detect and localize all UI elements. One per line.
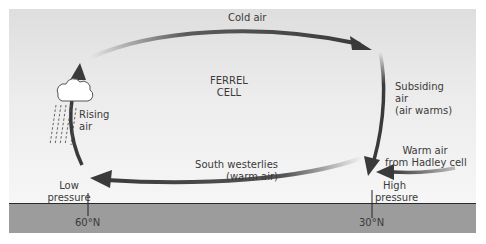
subsiding-air-arrowhead <box>364 156 380 176</box>
cold-air-arrowhead <box>350 36 372 50</box>
hadley-line1: Warm air <box>385 145 465 157</box>
subsiding-air-label: Subsiding air (air warms) <box>395 81 452 117</box>
high-pressure-label: High pressure <box>375 180 418 204</box>
rising-line1: Rising <box>79 109 109 121</box>
high-line2: pressure <box>375 192 418 204</box>
hadley-warm-air-label: Warm air from Hadley cell <box>385 145 465 169</box>
south-westerlies-line1: South westerlies <box>178 159 278 171</box>
rising-line2: air <box>79 121 109 133</box>
rising-air-label: Rising air <box>79 109 109 133</box>
lat-60-label: 60°N <box>75 217 100 229</box>
cell-label: FERREL CELL <box>210 75 248 99</box>
cell-label-line1: FERREL <box>210 75 248 87</box>
ferrel-cell-arrows <box>0 0 486 244</box>
subsiding-line2: air <box>395 93 452 105</box>
south-westerlies-line2: (warm air) <box>178 171 278 183</box>
rising-air-arrowhead <box>70 63 86 80</box>
low-line2: pressure <box>44 192 94 204</box>
hadley-line2: from Hadley cell <box>385 157 465 169</box>
subsiding-line3: (air warms) <box>395 105 452 117</box>
subsiding-line1: Subsiding <box>395 81 452 93</box>
low-pressure-label: Low pressure <box>44 180 94 204</box>
lat-30-label: 30°N <box>359 217 384 229</box>
subsiding-air-arrow <box>374 52 384 160</box>
south-westerlies-label: South westerlies (warm air) <box>178 159 278 183</box>
low-line1: Low <box>44 180 94 192</box>
cloud-icon <box>57 79 93 101</box>
cold-air-arrow <box>90 31 360 58</box>
cold-air-label: Cold air <box>228 12 266 24</box>
cell-label-line2: CELL <box>210 87 248 99</box>
high-line1: High <box>375 180 418 192</box>
